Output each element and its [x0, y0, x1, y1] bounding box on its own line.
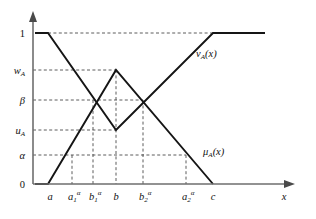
x-tick-b2alpha: b2α [139, 189, 152, 204]
data-curves [35, 33, 265, 184]
axes [29, 11, 295, 188]
curve-nu-a [35, 33, 265, 130]
x-tick-b1alpha: b1α [89, 189, 102, 204]
y-tick-labels: 1 wA β uA α 0 [14, 28, 26, 190]
x-tick-c: c [211, 191, 216, 202]
y-axis-arrow [29, 11, 37, 22]
x-axis-arrow [284, 180, 295, 188]
y-tick-wA: wA [14, 65, 26, 78]
mu-a-curve-label: μA(x) [202, 146, 225, 159]
nu-a-curve-label: νA(x) [196, 48, 217, 61]
x-tick-b: b [113, 191, 118, 202]
x-axis-label: x [281, 191, 287, 202]
figure-root: 1 wA β uA α 0 a a1α b1α b b2α a2α c x νA… [0, 0, 316, 219]
x-tick-a2alpha: a2α [182, 189, 195, 204]
x-tick-a: a [47, 191, 52, 202]
curve-labels: νA(x) μA(x) [196, 48, 225, 159]
y-tick-uA: uA [15, 125, 25, 138]
y-tick-alpha: α [19, 150, 25, 161]
x-tick-labels: a a1α b1α b b2α a2α c [47, 189, 215, 204]
x-tick-a1alpha: a1α [68, 189, 81, 204]
y-tick-zero: 0 [20, 179, 25, 190]
fuzzy-number-chart: 1 wA β uA α 0 a a1α b1α b b2α a2α c x νA… [0, 0, 316, 219]
y-tick-one: 1 [20, 28, 25, 39]
guide-lines [33, 33, 213, 184]
y-tick-beta: β [19, 95, 26, 106]
